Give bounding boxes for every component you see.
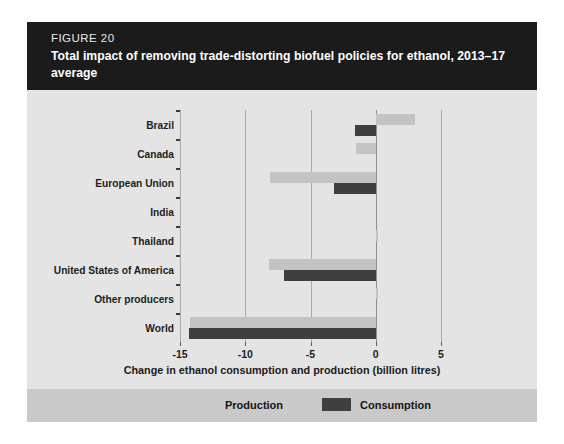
category-label: Other producers bbox=[94, 293, 174, 304]
gridline bbox=[245, 110, 246, 342]
category-label: Thailand bbox=[132, 235, 174, 246]
bar-consumption bbox=[284, 270, 375, 281]
legend-item-production: Production bbox=[187, 398, 283, 411]
x-tick-label: 0 bbox=[373, 348, 379, 360]
consumption-swatch bbox=[322, 398, 351, 411]
x-tick bbox=[441, 342, 442, 346]
x-tick bbox=[311, 342, 312, 346]
x-tick-label: -5 bbox=[306, 348, 315, 360]
bar-consumption bbox=[355, 125, 376, 136]
category-label: India bbox=[150, 206, 174, 217]
x-tick-label: 5 bbox=[438, 348, 444, 360]
bar-consumption bbox=[334, 183, 376, 194]
category-label: European Union bbox=[95, 177, 174, 188]
bar-consumption bbox=[189, 328, 376, 339]
x-tick-label: -10 bbox=[238, 348, 253, 360]
bar-production bbox=[376, 230, 379, 241]
category-axis-labels: BrazilCanadaEuropean UnionIndiaThailandU… bbox=[27, 110, 174, 342]
bar-production bbox=[376, 288, 379, 299]
x-tick bbox=[245, 342, 246, 346]
figure-header: FIGURE 20 Total impact of removing trade… bbox=[27, 22, 537, 90]
gridline bbox=[311, 110, 312, 342]
x-tick-label: -15 bbox=[172, 348, 187, 360]
bar-production bbox=[269, 259, 376, 270]
category-label: Canada bbox=[137, 148, 174, 159]
plot-area: BrazilCanadaEuropean UnionIndiaThailandU… bbox=[27, 90, 537, 389]
legend-label-production: Production bbox=[225, 399, 283, 411]
category-label: United States of America bbox=[54, 264, 174, 275]
figure-number: FIGURE 20 bbox=[51, 32, 114, 44]
bar-production bbox=[190, 317, 375, 328]
bar-production bbox=[376, 114, 415, 125]
category-label: Brazil bbox=[146, 119, 174, 130]
plot-canvas: -15-10-505 bbox=[180, 110, 441, 342]
figure-container: FIGURE 20 Total impact of removing trade… bbox=[27, 22, 537, 422]
figure-title: Total impact of removing trade-distortin… bbox=[51, 48, 521, 81]
legend-label-consumption: Consumption bbox=[360, 399, 431, 411]
bar-production bbox=[270, 172, 376, 183]
gridline bbox=[441, 110, 442, 342]
legend-item-consumption: Consumption bbox=[322, 398, 431, 411]
chart-legend: Production Consumption bbox=[27, 389, 537, 422]
x-axis-title: Change in ethanol consumption and produc… bbox=[27, 364, 537, 376]
x-tick bbox=[180, 342, 181, 346]
bar-production bbox=[356, 143, 376, 154]
gridline bbox=[180, 110, 181, 342]
production-swatch bbox=[187, 398, 216, 411]
x-tick bbox=[376, 342, 377, 346]
category-label: World bbox=[145, 322, 174, 333]
zero-axis-line bbox=[376, 110, 377, 342]
